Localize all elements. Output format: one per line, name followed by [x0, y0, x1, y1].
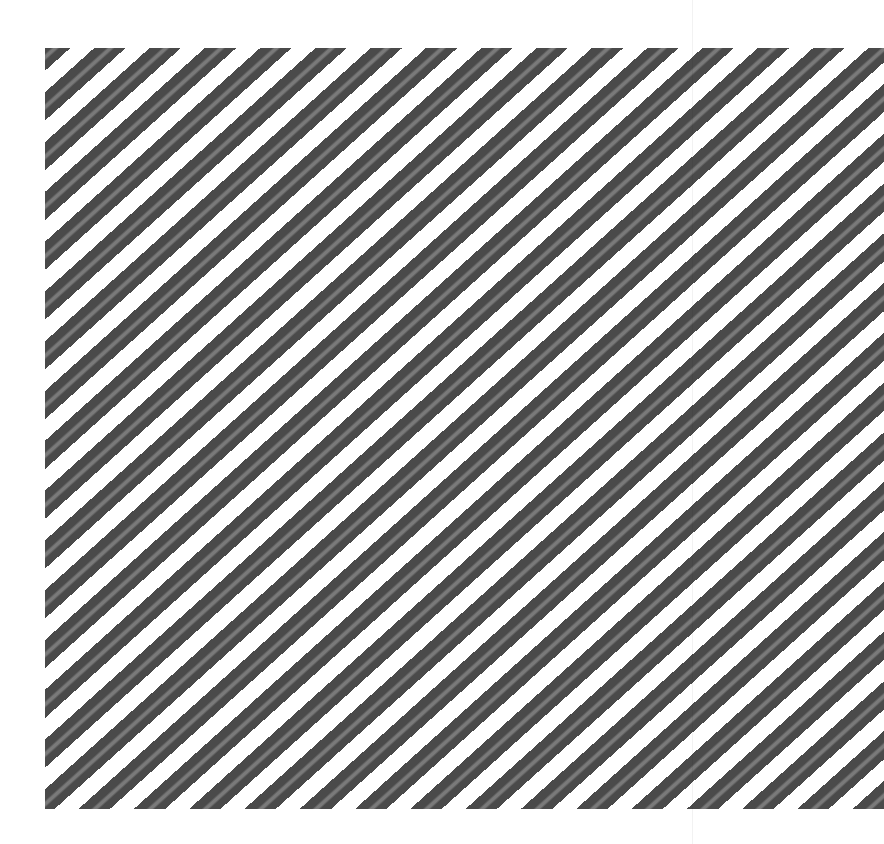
diagonal-stripe-pattern — [45, 48, 884, 809]
faint-vertical-line — [692, 0, 693, 844]
